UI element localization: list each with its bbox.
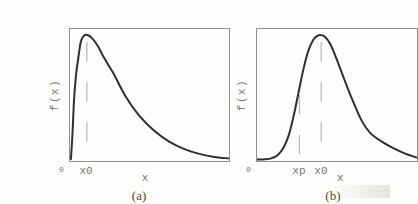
subfigure-caption-a: (a)	[132, 188, 146, 204]
origin-zero-label-a: 0	[59, 165, 64, 174]
y-axis-label-b: f(x)	[236, 79, 248, 111]
tick-label-x0: x0	[79, 165, 92, 177]
density-curve-svg	[257, 29, 417, 161]
density-curve	[71, 35, 228, 159]
tick-label-x0: x0	[314, 165, 327, 177]
density-plot-b: f(x) 0 xpx0 x (b)	[256, 28, 418, 162]
tick-labels-a: x0	[69, 165, 230, 178]
plot-frame-b	[256, 28, 418, 162]
density-curve	[257, 35, 417, 160]
x-axis-label-b: x	[337, 172, 344, 184]
origin-zero-label-b: 0	[246, 165, 251, 174]
tick-label-xp: xp	[292, 165, 305, 177]
scan-artifact	[332, 185, 390, 198]
x-axis-label-a: x	[142, 172, 149, 184]
density-curve-svg	[70, 29, 229, 161]
density-plot-a: f(x) 0 x0 x (a)	[69, 28, 230, 162]
y-axis-label-a: f(x)	[49, 79, 61, 111]
plot-frame-a	[69, 28, 230, 162]
